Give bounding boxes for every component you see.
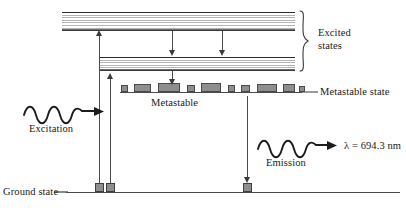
energy-level-diagram: Excited states Metastable state Metastab…: [0, 0, 406, 212]
nonradiative-decay-2-arrow-shaft: [222, 31, 223, 50]
metastable-block: [257, 84, 277, 92]
nonradiative-decay-2-arrow-head: [219, 50, 225, 56]
metastable-block: [241, 85, 250, 92]
nonradiative-decay-1-arrow-shaft: [172, 31, 173, 50]
wavelength-label: λ = 694.3 nm: [344, 140, 401, 152]
ground-state-block: [106, 183, 115, 192]
metastable-block: [228, 85, 235, 92]
lower-band-stripes: [100, 58, 295, 69]
excited-states-brace: [300, 11, 308, 71]
metastable-state-label: Metastable state: [320, 86, 390, 98]
excitation-wave-icon: [24, 107, 104, 124]
pump-to-upper-band-arrow-head: [96, 30, 102, 36]
metastable-block: [299, 86, 305, 92]
ground-state-block: [95, 183, 104, 192]
pump-to-upper-band-arrow-shaft: [99, 36, 100, 183]
lower-band-baseline: [100, 70, 295, 71]
metastable-level-line: [120, 92, 302, 93]
ground-state-line: [66, 192, 400, 193]
lower-excited-band: [100, 57, 295, 70]
ground-state-block: [243, 183, 252, 192]
emission-label: Emission: [266, 157, 306, 169]
excited-states-label-line1: Excited: [318, 27, 351, 38]
ground-state-label: Ground state: [3, 186, 58, 198]
metastable-label: Metastable: [151, 97, 198, 109]
nonradiative-decay-1-arrow-head: [169, 50, 175, 56]
pump-to-metastable-arrow-head: [107, 73, 113, 79]
lasing-emission-arrow-head: [244, 177, 250, 183]
emission-wave-icon: [258, 141, 337, 158]
metastable-block: [121, 85, 128, 92]
lasing-emission-arrow-shaft: [247, 96, 248, 177]
metastable-block: [134, 84, 151, 92]
excited-states-label-line2: states: [318, 40, 342, 51]
pump-to-metastable-arrow-shaft: [110, 79, 111, 183]
metastable-block: [201, 83, 221, 92]
decay-to-metastable-arrow-head: [169, 79, 175, 85]
excited-states-label: Excited states: [318, 27, 378, 52]
excitation-label: Excitation: [29, 123, 73, 135]
metastable-block: [283, 84, 295, 92]
upper-band-stripes: [62, 13, 295, 29]
metastable-block: [187, 85, 195, 92]
upper-excited-band: [62, 12, 295, 30]
